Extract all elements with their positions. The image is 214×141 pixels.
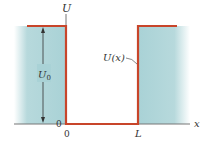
- potential-well-diagram: U x 0 0 L U0 U(x): [0, 0, 214, 141]
- curve-leader-line: [126, 58, 137, 64]
- curve-function-label: U(x): [103, 52, 125, 63]
- x-axis-label: x: [194, 118, 200, 129]
- origin-y-label: 0: [56, 119, 62, 129]
- y-axis-label: U: [62, 2, 72, 15]
- well-width-label: L: [134, 128, 142, 139]
- origin-x-label: 0: [64, 129, 70, 139]
- right-barrier-region: [138, 26, 190, 124]
